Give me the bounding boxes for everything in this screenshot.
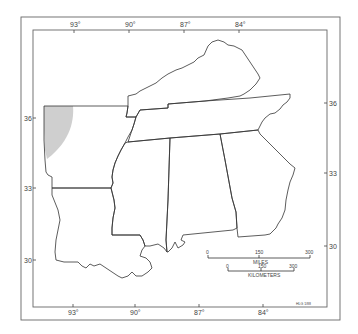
lat-right-33: 33 — [329, 170, 337, 177]
shaded-region — [44, 106, 73, 159]
lat-left-36: 36 — [24, 115, 32, 122]
scale-km-label: KILOMETERS — [248, 272, 281, 278]
scale-km-150: 150 — [258, 263, 267, 269]
outer-frame — [21, 17, 340, 320]
lon-bottom-93: 93° — [68, 309, 79, 316]
lon-bottom-87: 87° — [194, 309, 205, 316]
right-latitude-ticks — [324, 103, 327, 246]
state-georgia — [220, 130, 295, 237]
inner-frame — [33, 30, 327, 307]
state-louisiana — [52, 188, 152, 278]
lon-top-93: 93° — [70, 21, 81, 28]
lat-right-36: 36 — [329, 100, 337, 107]
bottom-longitude-ticks — [73, 304, 263, 307]
scale-miles-300: 300 — [305, 249, 314, 255]
lat-right-30: 30 — [329, 243, 337, 250]
map-credit: HLG 1/88 — [296, 302, 311, 306]
lon-top-84: 84° — [235, 21, 246, 28]
scale-miles-0: 0 — [206, 249, 209, 255]
lon-bottom-84: 84° — [258, 309, 269, 316]
map-canvas: 93° 90° 87° 84° 93° 90° 87° 84° 36 33 30… — [0, 0, 358, 334]
lat-left-30: 30 — [24, 257, 32, 264]
state-kentucky — [126, 40, 260, 117]
lon-bottom-90: 90° — [130, 309, 141, 316]
scale-km-0: 0 — [226, 263, 229, 269]
lon-top-87: 87° — [180, 21, 191, 28]
lat-left-33: 33 — [24, 185, 32, 192]
state-alabama — [166, 134, 237, 252]
scale-miles-150: 150 — [255, 249, 264, 255]
lon-top-90: 90° — [125, 21, 136, 28]
scale-km-300: 300 — [289, 263, 298, 269]
